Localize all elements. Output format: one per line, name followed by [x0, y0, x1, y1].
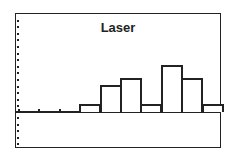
y-axis-tick	[17, 124, 19, 126]
histogram-bar	[100, 85, 122, 112]
y-axis-tick	[17, 92, 19, 94]
y-axis-tick	[17, 59, 19, 61]
y-axis-tick	[17, 86, 19, 88]
y-axis-tick	[17, 99, 19, 101]
x-axis-tick	[38, 109, 40, 111]
x-axis-tick	[59, 109, 61, 111]
histogram-bar	[140, 104, 162, 112]
y-axis-tick	[17, 143, 19, 145]
calculator-screen: Laser	[15, 13, 221, 148]
y-axis-tick	[17, 66, 19, 68]
y-axis-tick	[17, 46, 19, 48]
histogram-bar	[161, 65, 183, 112]
y-axis-tick	[17, 33, 19, 35]
histogram-bar	[79, 104, 101, 112]
x-axis-tick	[18, 109, 20, 111]
y-axis-tick	[17, 39, 19, 41]
y-axis-tick	[17, 137, 19, 139]
y-axis-tick	[17, 53, 19, 55]
y-axis-tick	[17, 79, 19, 81]
y-axis-tick	[17, 130, 19, 132]
y-axis-tick	[17, 26, 19, 28]
histogram-bar	[181, 78, 203, 112]
chart-title: Laser	[16, 20, 220, 35]
y-axis-tick	[17, 117, 19, 119]
histogram-bar	[120, 78, 142, 112]
histogram-bar	[202, 104, 224, 112]
y-axis-tick	[17, 72, 19, 74]
y-axis-tick	[17, 20, 19, 22]
y-axis-tick	[17, 105, 19, 107]
